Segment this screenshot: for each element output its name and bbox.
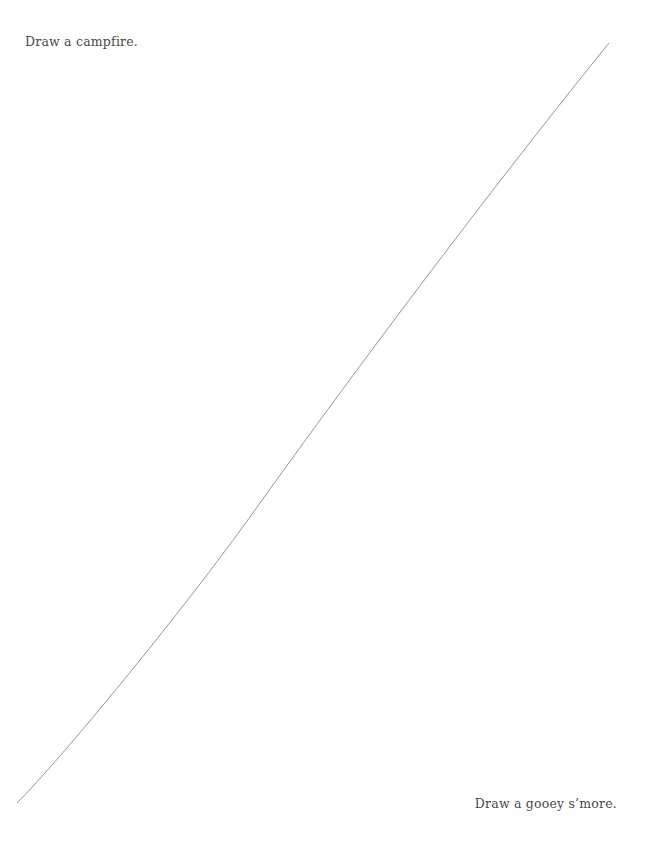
diagonal-divider-line	[0, 0, 659, 852]
activity-page: Draw a campfire. Draw a gooey s’more.	[0, 0, 659, 852]
smore-prompt: Draw a gooey s’more.	[475, 796, 617, 811]
